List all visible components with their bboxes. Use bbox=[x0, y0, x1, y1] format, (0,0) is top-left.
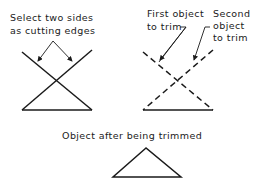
result-caption: Object after being trimmed bbox=[62, 130, 202, 141]
cutting-edges-panel: Select two sides as cutting edges bbox=[10, 12, 95, 110]
cutting-edges-label-line2: as cutting edges bbox=[10, 25, 95, 36]
trimmed-triangle bbox=[113, 148, 181, 177]
objects-to-trim-panel: First object to trim Second object to tr… bbox=[143, 8, 250, 110]
first-object-dashed-line bbox=[143, 52, 213, 110]
cutting-edges-label-line1: Select two sides bbox=[10, 12, 93, 23]
second-object-label-line2: object bbox=[213, 20, 245, 31]
first-object-label-line2: to trim bbox=[147, 21, 182, 32]
cutting-edge-arrow-left bbox=[38, 41, 53, 61]
second-object-label-line3: to trim bbox=[213, 32, 248, 43]
trim-diagram: Select two sides as cutting edges First … bbox=[0, 0, 256, 188]
second-object-label-line1: Second bbox=[213, 8, 250, 19]
result-panel: Object after being trimmed bbox=[62, 130, 202, 177]
second-object-dashed-line bbox=[143, 50, 213, 110]
cutting-edge-arrow-right bbox=[53, 41, 72, 61]
second-object-arrow bbox=[194, 27, 210, 60]
first-object-label-line1: First object bbox=[147, 8, 204, 19]
